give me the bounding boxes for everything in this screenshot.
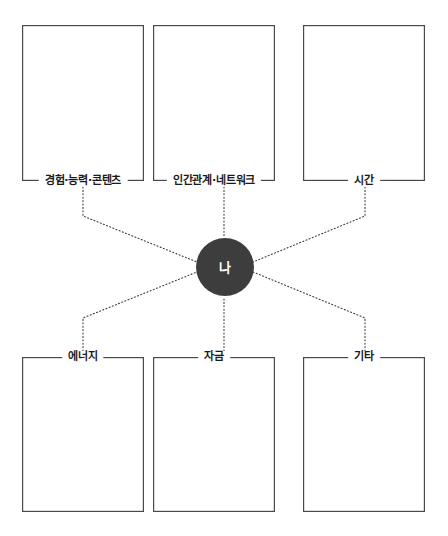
- box-frame: [22, 25, 144, 181]
- node-label-energy: 에너지: [62, 351, 103, 363]
- node-box-energy[interactable]: 에너지: [22, 357, 144, 512]
- box-frame: [153, 25, 275, 181]
- connector-energy-to-center: [83, 272, 197, 351]
- box-frame: [303, 25, 425, 181]
- center-node[interactable]: 나: [196, 238, 254, 296]
- node-box-etc[interactable]: 기타: [303, 357, 425, 512]
- node-box-funds[interactable]: 자금: [153, 357, 275, 512]
- diagram-canvas: 경험·능력·콘텐츠 인간관계·네트워크 시간 나 에너지 자금 기타: [0, 0, 448, 536]
- center-node-label: 나: [219, 261, 231, 274]
- box-frame: [153, 357, 275, 512]
- node-label-time: 시간: [348, 175, 380, 187]
- node-box-network[interactable]: 인간관계·네트워크: [153, 25, 275, 181]
- connector-etc-to-center: [253, 272, 365, 351]
- connector-experience-to-center: [83, 187, 197, 262]
- node-label-experience: 경험·능력·콘텐츠: [39, 175, 128, 187]
- node-box-experience[interactable]: 경험·능력·콘텐츠: [22, 25, 144, 181]
- connector-time-to-center: [253, 187, 365, 262]
- node-box-time[interactable]: 시간: [303, 25, 425, 181]
- node-label-network: 인간관계·네트워크: [167, 175, 261, 187]
- node-label-etc: 기타: [348, 351, 380, 363]
- box-frame: [303, 357, 425, 512]
- box-frame: [22, 357, 144, 512]
- node-label-funds: 자금: [198, 351, 230, 363]
